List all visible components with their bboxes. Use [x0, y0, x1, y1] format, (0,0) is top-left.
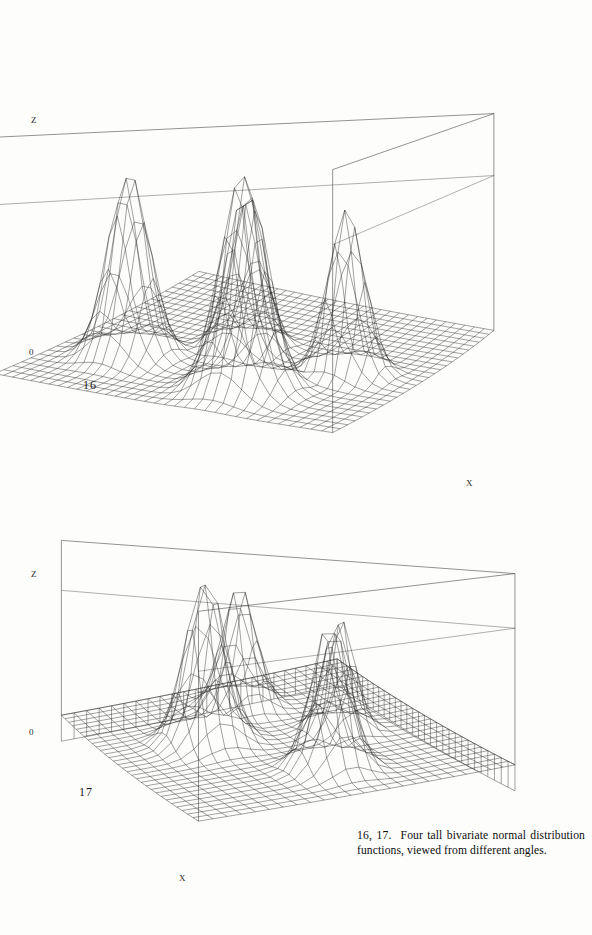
wall-rail-left — [61, 590, 515, 628]
mesh-column — [177, 736, 488, 807]
mesh-column — [86, 279, 278, 391]
slab-front-face-top — [337, 659, 515, 765]
mesh-row — [158, 295, 463, 354]
mesh-column — [67, 180, 261, 387]
mesh-column — [278, 282, 446, 424]
mesh-row — [106, 205, 423, 382]
slab-left-face-top — [61, 659, 337, 715]
mesh-column — [193, 761, 508, 817]
mesh-column — [300, 325, 465, 427]
caption-number: 16, 17. — [357, 829, 392, 842]
x-axis-label-17: X — [179, 874, 186, 883]
mesh-row — [207, 593, 364, 793]
mesh-column — [311, 327, 475, 429]
surface-plot-16 — [0, 0, 592, 500]
mesh-row — [306, 666, 479, 772]
mesh-column — [113, 585, 406, 761]
mesh-column — [151, 712, 455, 789]
slab-left-face-bottom — [61, 685, 337, 741]
origin-label-16: 0 — [29, 348, 34, 357]
origin-label-17: 0 — [29, 728, 34, 737]
figure-16 — [0, 0, 592, 500]
bounding-frame — [61, 540, 515, 821]
mesh-column — [161, 634, 468, 797]
mesh-column — [322, 329, 485, 431]
mesh-row — [172, 287, 474, 346]
slab-front-face-bottom — [337, 685, 515, 791]
mesh-row — [148, 585, 297, 805]
mesh-column — [21, 277, 221, 379]
mesh-column — [72, 669, 352, 725]
pedestal-base — [61, 659, 515, 791]
mesh-row — [112, 706, 256, 812]
mesh-row — [230, 641, 391, 789]
mesh-column — [257, 210, 427, 420]
mesh-column — [166, 641, 474, 800]
mesh-row — [199, 271, 494, 330]
mesh-row — [98, 210, 416, 385]
wall-rail-right — [198, 628, 514, 671]
mesh-row — [192, 275, 489, 334]
z-axis-label-17: Z — [31, 570, 37, 579]
surface-wireframe — [61, 585, 515, 821]
top-edge-left — [0, 114, 494, 138]
mesh-row — [22, 313, 355, 421]
mesh-row — [61, 715, 198, 821]
top-edge-right — [333, 114, 494, 170]
mesh-column — [187, 758, 501, 814]
mesh-column — [118, 624, 413, 764]
wall-rail-right — [333, 176, 494, 245]
mesh-column — [246, 244, 417, 419]
mesh-row — [295, 668, 466, 774]
z-axis-label-16: Z — [31, 116, 37, 125]
book-page: Z 0 X 16 Z 0 X 17 16, 17.Four tall bivar… — [0, 0, 592, 935]
figure-caption: 16, 17.Four tall bivariate normal distri… — [357, 828, 585, 859]
wall-rail-left — [0, 176, 494, 205]
figure-number-16: 16 — [83, 379, 97, 391]
mesh-row — [136, 630, 283, 807]
figure-number-17: 17 — [79, 786, 93, 798]
mesh-row — [74, 713, 213, 819]
mesh-row — [218, 592, 377, 790]
mesh-column — [31, 278, 230, 380]
mesh-column — [3, 273, 206, 375]
mesh-row — [160, 604, 311, 803]
mesh-row — [285, 671, 454, 777]
mesh-column — [198, 765, 515, 821]
mesh-column — [195, 188, 373, 409]
mesh-column — [88, 614, 373, 740]
mesh-column — [182, 754, 494, 810]
surface-wireframe — [0, 177, 494, 433]
top-edge-left — [61, 540, 515, 573]
mesh-row — [337, 659, 515, 765]
mesh-column — [61, 659, 337, 715]
